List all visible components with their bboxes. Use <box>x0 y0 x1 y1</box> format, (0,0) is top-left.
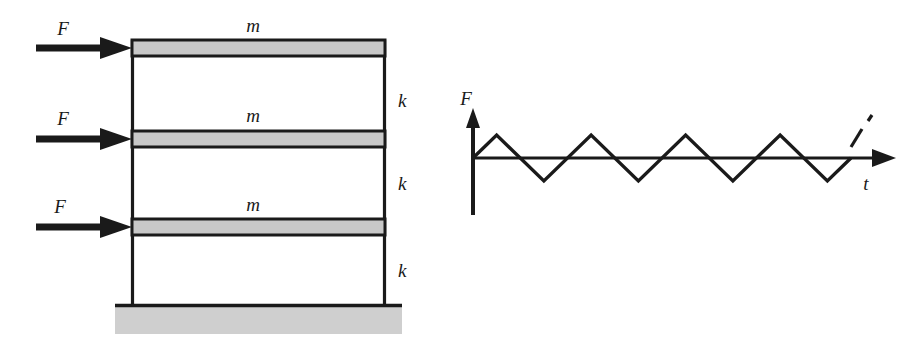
force-arrow-bottom <box>36 216 132 238</box>
mass-slab-middle <box>132 131 385 147</box>
y-axis-label: F <box>459 88 472 109</box>
three-storey-frame: m m m k k k F F F <box>36 15 407 334</box>
mass-slab-top <box>132 40 385 56</box>
force-arrow-top-head <box>100 37 132 59</box>
x-axis-arrowhead <box>872 149 896 167</box>
stiffness-label-bottom: k <box>398 260 407 281</box>
stiffness-label-top: k <box>398 90 407 111</box>
ground-block <box>115 306 402 334</box>
x-axis-label: t <box>863 173 869 194</box>
force-label-bottom: F <box>53 196 66 217</box>
figure-svg: m m m k k k F F F <box>0 0 924 349</box>
mass-slab-bottom <box>132 219 385 235</box>
mass-label-bottom: m <box>246 194 260 215</box>
mass-label-middle: m <box>246 105 260 126</box>
continuation-dash-2 <box>868 115 872 121</box>
continuation-dashes <box>851 115 872 147</box>
y-axis-arrowhead <box>466 108 480 128</box>
force-arrow-middle-head <box>100 128 132 150</box>
force-arrow-middle <box>36 128 132 150</box>
stiffness-label-middle: k <box>398 173 407 194</box>
force-label-middle: F <box>56 108 69 129</box>
continuation-dash-1 <box>851 129 862 147</box>
figure-container: m m m k k k F F F <box>0 0 924 349</box>
force-label-top: F <box>56 18 69 39</box>
mass-label-top: m <box>246 15 260 36</box>
force-arrow-top <box>36 37 132 59</box>
force-arrow-bottom-head <box>100 216 132 238</box>
force-time-history: F t <box>459 88 896 215</box>
